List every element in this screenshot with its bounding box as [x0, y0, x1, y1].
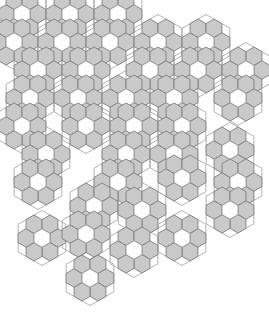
rosette-center-hexagon: [134, 201, 150, 219]
rosette-center-hexagon: [142, 61, 158, 79]
rosette-center-hexagon: [222, 141, 238, 159]
rosette-center-hexagon: [54, 33, 70, 51]
rosette-center-hexagon: [6, 33, 22, 51]
rosette-center-hexagon: [34, 229, 50, 247]
tiling-figure: Hexagonal Rosette Tiling: [0, 0, 269, 313]
rosette-center-hexagon: [174, 169, 190, 187]
rosette-center-hexagon: [30, 173, 46, 191]
rosette-center-hexagon: [230, 89, 246, 107]
rosette-center-hexagon: [190, 61, 206, 79]
rosette-center-hexagon: [78, 117, 94, 135]
rosette-center-hexagon: [174, 229, 190, 247]
rosette-center-hexagon: [102, 33, 118, 51]
rosette-center-hexagon: [82, 269, 98, 287]
rosette-center-hexagon: [110, 173, 126, 191]
tiling-canvas: [0, 0, 269, 313]
rosette-center-hexagon: [222, 201, 238, 219]
rosette-center-hexagon: [78, 225, 94, 243]
rosette-center-hexagon: [14, 117, 30, 135]
rosette-center-hexagon: [126, 241, 142, 259]
